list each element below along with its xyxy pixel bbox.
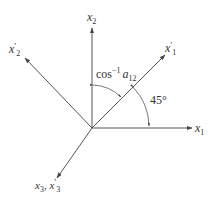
- coordinate-rotation-diagram: x2 x′2 x′1 x1 x3, x′3 cos−1a12 45°: [0, 0, 211, 201]
- x1-prime-axis: [92, 55, 165, 128]
- x3-label: x3, x′3: [34, 177, 60, 194]
- angle-arc-cos: [93, 85, 121, 97]
- x1-label: x1: [194, 121, 204, 137]
- x1-prime-label: x′1: [164, 40, 176, 57]
- angle-arc-45: [133, 87, 149, 126]
- x2-prime-axis: [25, 58, 92, 128]
- x2-prime-label: x′2: [8, 41, 20, 58]
- angle-45-label: 45°: [150, 93, 167, 107]
- x3-axis: [57, 128, 92, 178]
- x2-label: x2: [86, 10, 96, 26]
- cos-inverse-label: cos−1a12: [96, 66, 137, 83]
